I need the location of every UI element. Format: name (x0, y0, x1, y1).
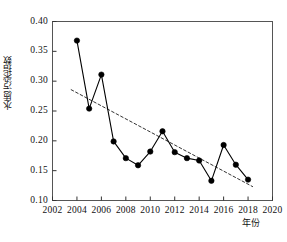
plot-area (0, 0, 287, 242)
data-point (196, 158, 201, 163)
data-point (221, 142, 226, 147)
data-point (172, 149, 177, 154)
data-points (74, 38, 251, 184)
data-point (184, 155, 189, 160)
trend-line (71, 90, 253, 187)
data-point (148, 149, 153, 154)
data-point (99, 72, 104, 77)
data-point (233, 162, 238, 167)
data-point (160, 129, 165, 134)
data-point (245, 177, 250, 182)
data-point (123, 155, 128, 160)
data-point (135, 163, 140, 168)
data-line (77, 41, 248, 181)
y-tick-marks (53, 22, 57, 201)
chart-figure: 水质污染指数 0.400.350.300.250.200.150.10 2002… (0, 0, 287, 242)
data-point (111, 139, 116, 144)
data-point (86, 106, 91, 111)
x-tick-marks (53, 197, 273, 201)
plot-frame (53, 22, 273, 201)
data-point (209, 178, 214, 183)
data-point (74, 38, 79, 43)
